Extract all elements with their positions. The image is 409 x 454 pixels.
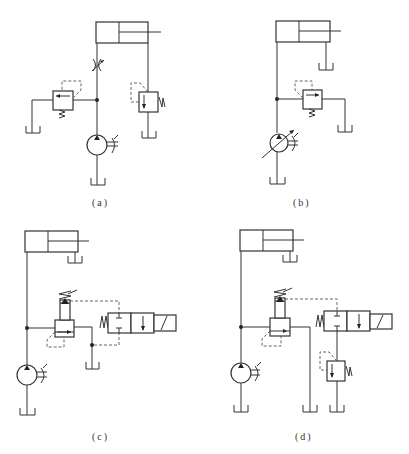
panel-a xyxy=(26,22,165,185)
panel-c xyxy=(17,231,176,415)
cylinder-icon xyxy=(276,21,341,42)
remote-relief-valve-icon xyxy=(320,352,352,381)
panel-label-d: (d) xyxy=(295,431,313,442)
fixed-pump-icon xyxy=(231,362,261,383)
cylinder-icon xyxy=(240,230,304,251)
cylinder-icon xyxy=(96,22,161,43)
fixed-pump-icon xyxy=(87,135,118,155)
junction-dot xyxy=(90,343,94,347)
panel-label-c: (c) xyxy=(92,431,109,442)
panel-b xyxy=(262,21,352,184)
solenoid-directional-valve-icon xyxy=(316,311,392,331)
panel-d xyxy=(231,230,392,412)
relief-valve-icon xyxy=(32,81,97,133)
variable-pump-icon xyxy=(262,130,298,158)
tank-icon xyxy=(91,178,105,185)
tank-icon xyxy=(142,131,156,138)
cylinder-icon xyxy=(25,231,89,252)
throttle-valve-icon xyxy=(92,59,104,71)
solenoid-directional-valve-icon xyxy=(100,313,176,333)
tank-icon xyxy=(26,126,40,133)
panel-label-a: (a) xyxy=(92,197,109,208)
panel-label-b: (b) xyxy=(293,197,311,208)
hydraulic-circuit-figure xyxy=(0,0,409,454)
fixed-pump-icon xyxy=(17,364,47,385)
